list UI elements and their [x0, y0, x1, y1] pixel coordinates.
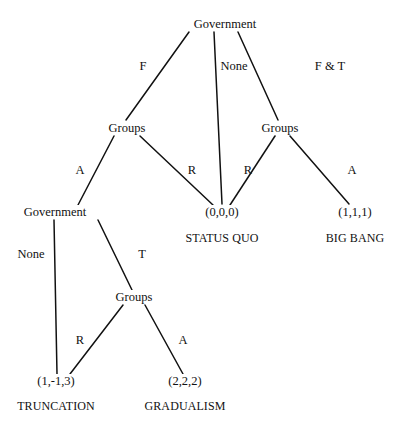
node-government-root: Government [193, 17, 257, 31]
payoff-gradualism: (2,2,2) [167, 374, 202, 388]
edge-label-a-right: A [347, 163, 356, 177]
edge-label-t: T [138, 247, 146, 261]
outcome-status-quo: STATUS QUO [185, 231, 258, 245]
edge-label-a-left: A [75, 163, 84, 177]
payoff-status-quo: (0,0,0) [204, 205, 239, 219]
outcome-gradualism: GRADUALISM [144, 399, 225, 413]
edge-groups_right-to-big_bang [290, 136, 349, 204]
node-groups-right: Groups [261, 121, 300, 135]
edge-label-r-right: R [244, 163, 252, 177]
outcome-big-bang: BIG BANG [326, 231, 384, 245]
edge-label-f: F [140, 59, 147, 73]
payoff-big-bang: (1,1,1) [337, 205, 372, 219]
edge-gov_root-to-groups_right [238, 32, 278, 120]
edge-groups_left-to-status_quo [140, 136, 213, 205]
payoff-truncation: (1,-1,3) [36, 374, 76, 388]
node-groups-left: Groups [108, 121, 147, 135]
edge-label-none-top: None [220, 59, 247, 73]
node-groups-lower: Groups [115, 290, 154, 304]
edge-label-none-lower: None [17, 247, 44, 261]
edge-groups_right-to-status_quo [230, 136, 275, 205]
edge-gov_root-to-groups_left [126, 32, 189, 120]
edge-label-r-lower: R [76, 333, 84, 347]
node-government-second: Government [23, 205, 87, 219]
edge-gov_second-to-groups_lower [98, 220, 132, 290]
outcome-truncation: TRUNCATION [17, 399, 95, 413]
edge-label-f-and-t: F & T [315, 59, 345, 73]
edge-groups_lower-to-gradualism [145, 305, 183, 374]
edge-label-r-left: R [188, 163, 196, 177]
edge-gov_second-to-truncation [54, 220, 57, 374]
edge-label-a-lower: A [178, 333, 187, 347]
edge-gov_root-to-status_quo [214, 32, 222, 204]
